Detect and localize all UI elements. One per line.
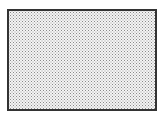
stippled-rectangle — [7, 9, 157, 111]
